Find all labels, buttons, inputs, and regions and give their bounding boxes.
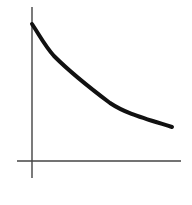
decay-curve-line [32,24,172,127]
decay-chart [0,0,192,205]
